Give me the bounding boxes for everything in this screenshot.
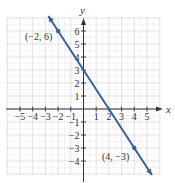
plotted-line	[48, 16, 152, 175]
y-tick-label: −4	[69, 156, 80, 167]
y-tick-label: −1	[69, 117, 80, 128]
x-tick-label: −5	[15, 111, 26, 122]
x-tick-label: −2	[53, 111, 64, 122]
point-label-neg2-6: (−2, 6)	[25, 31, 52, 43]
y-tick-label: 3	[75, 65, 80, 76]
x-tick-label: 5	[145, 111, 150, 122]
y-tick-label: 6	[75, 26, 80, 37]
data-point	[56, 29, 60, 33]
x-tick-label: −3	[40, 111, 51, 122]
data-point	[132, 146, 136, 150]
y-axis-label: y	[79, 4, 85, 16]
x-axis-label: x	[165, 103, 171, 115]
y-tick-label: −2	[69, 130, 80, 141]
x-tick-label: 3	[119, 111, 124, 122]
y-tick-label: 5	[75, 39, 80, 50]
x-tick-label: 4	[132, 111, 137, 122]
x-tick-label: −4	[27, 111, 38, 122]
y-tick-label: 1	[75, 91, 80, 102]
point-label-4-neg3: (4, −3)	[102, 151, 129, 163]
x-tick-label: 1	[94, 111, 99, 122]
y-tick-label: −3	[69, 143, 80, 154]
y-tick-label: 2	[75, 78, 80, 89]
coordinate-plane-chart: −5−4−3−2−112345−4−3−2−1123456 x y (−2, 6…	[0, 0, 175, 183]
